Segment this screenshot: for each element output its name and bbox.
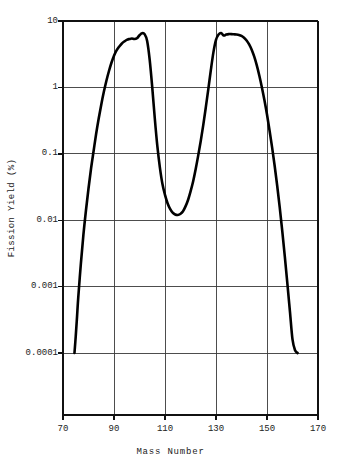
plot-area (0, 0, 341, 467)
vertical-gridlines (114, 21, 267, 415)
fission-yield-curve (74, 33, 297, 353)
fission-yield-figure: Fission Yield (%) 1010.10.010.0010.0001 … (0, 0, 341, 467)
